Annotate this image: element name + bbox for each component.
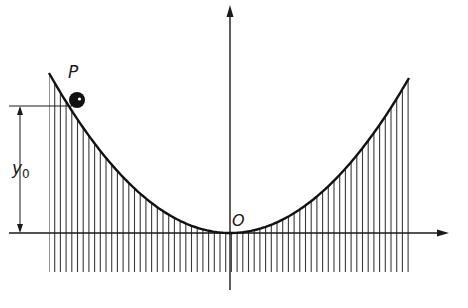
height-subscript: 0	[22, 167, 30, 181]
height-label-y0: y0	[12, 158, 30, 181]
ball-icon	[69, 92, 85, 108]
y-axis-arrow-icon	[227, 5, 234, 17]
height-symbol: y	[12, 158, 22, 178]
x-axis-arrow-icon	[437, 230, 449, 237]
parabola-diagram	[0, 0, 468, 308]
dimension-arrow-down-icon	[17, 224, 23, 233]
point-label-p: P	[68, 62, 78, 82]
origin-label-o: O	[232, 211, 245, 230]
ball-highlight	[78, 97, 81, 100]
parabola-curve	[49, 73, 409, 233]
hatching	[49, 60, 408, 272]
dimension-arrow-up-icon	[17, 106, 23, 115]
